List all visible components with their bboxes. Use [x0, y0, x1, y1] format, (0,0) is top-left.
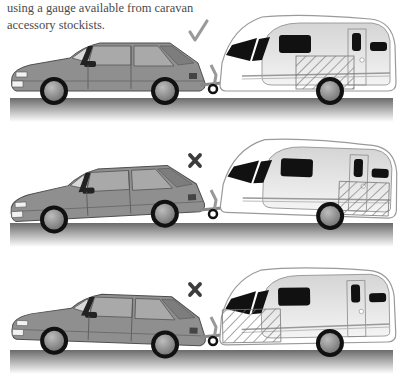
jockey-wheel: [209, 210, 217, 218]
caravan-door-handle: [359, 309, 363, 313]
car-front-wheel: [42, 79, 66, 103]
caravan-door-handle: [360, 58, 364, 62]
caravan-load-area: [338, 181, 389, 216]
caravan-rear-window: [372, 168, 389, 178]
car-front-wheel: [41, 207, 66, 232]
car-headlight: [16, 72, 27, 77]
caravan-door-window: [351, 284, 360, 302]
jockey-wheel: [209, 85, 217, 93]
car-headlight: [15, 202, 26, 208]
car-bumper-front: [12, 211, 23, 218]
towing-scene: [0, 130, 402, 255]
panel-tail-heavy-loading: [0, 130, 402, 255]
towing-scene: [0, 5, 402, 130]
caravan-load-area: [222, 309, 281, 343]
caravan-side-window: [279, 35, 311, 53]
car-taillight: [188, 194, 196, 200]
caravan-wheel: [318, 79, 342, 103]
car-rear-wheel: [153, 332, 178, 357]
car-mirror: [82, 187, 94, 194]
caravan: [219, 266, 397, 357]
car-taillight: [189, 73, 197, 79]
car-rear-wheel: [153, 79, 177, 103]
caravan-wheel: [318, 204, 343, 229]
panel-nose-heavy-loading: [0, 257, 402, 382]
car: [11, 291, 207, 358]
caravan-side-window: [278, 287, 310, 306]
jockey-wheel: [209, 337, 217, 345]
caravan-rear-window: [370, 42, 387, 51]
panel-correct-loading: [0, 5, 402, 130]
car-front-wheel: [42, 328, 67, 353]
car-mirror: [85, 312, 97, 318]
caravan: [220, 137, 399, 231]
caravan-wheel: [318, 331, 342, 355]
car-mirror: [84, 61, 96, 67]
car-bumper-front: [12, 81, 23, 87]
car-headlight: [17, 320, 28, 325]
caravan-rear-window: [369, 293, 386, 302]
caravan: [220, 15, 396, 103]
car-rear-wheel: [152, 201, 177, 226]
cross-icon: [190, 284, 200, 295]
cross-icon: [190, 155, 200, 166]
car: [12, 43, 206, 103]
car-taillight: [189, 327, 197, 333]
towing-scene: [0, 257, 402, 382]
caravan-door-window: [354, 159, 364, 177]
tick-icon: [190, 21, 207, 40]
car-bumper-front: [12, 329, 23, 335]
caravan-door-window: [352, 33, 361, 51]
caravan-side-window: [280, 158, 313, 177]
